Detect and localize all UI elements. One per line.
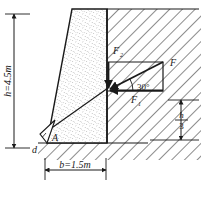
third-height-denominator-label: 3 <box>179 121 184 131</box>
base-dimension-label: b=1.5m <box>59 159 90 170</box>
height-dimension-label: h=4.5m <box>2 65 13 96</box>
retaining-wall-figure: h=4.5m b=1.5m F F 2 F 1 30° h 3 A d <box>0 0 201 197</box>
force-horizontal-label-base: F <box>130 94 138 105</box>
retaining-wall-body <box>47 9 107 143</box>
point-d-label: d <box>32 144 38 155</box>
force-resultant-label: F <box>169 57 177 68</box>
figure-canvas: h=4.5m b=1.5m F F 2 F 1 30° h 3 A d <box>0 0 201 197</box>
soil-hatch-backfill <box>107 9 201 144</box>
force-vertical-label-base: F <box>112 45 120 56</box>
force-horizontal-label-sub: 1 <box>138 101 141 107</box>
force-vertical-label-sub: 2 <box>120 52 123 58</box>
angle-label: 30° <box>137 82 150 92</box>
point-a-label: A <box>51 132 59 143</box>
third-height-numerator-label: h <box>179 110 184 120</box>
